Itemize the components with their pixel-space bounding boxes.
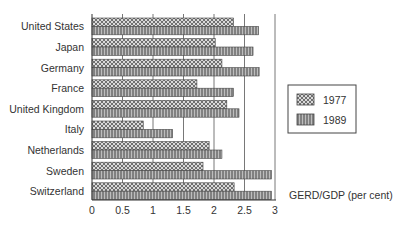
x-tick-label: 2 <box>211 204 217 216</box>
bar-1977 <box>92 39 215 47</box>
bar-1977 <box>92 100 227 108</box>
bar-1977 <box>92 183 234 191</box>
x-axis-label: GERD/GDP (per cent) <box>289 189 393 201</box>
category-labels: United StatesJapanGermanyFranceUnited Ki… <box>9 20 84 197</box>
x-tick-label: 0.5 <box>115 204 130 216</box>
bar-1977 <box>92 162 203 170</box>
bar-1989 <box>92 129 173 137</box>
legend: 1977 1989 <box>288 85 356 133</box>
bar-1977 <box>92 80 197 88</box>
category-label: United States <box>21 20 84 32</box>
bar-1989 <box>92 88 234 96</box>
bar-1989 <box>92 150 222 158</box>
gerd-gdp-bar-chart: United StatesJapanGermanyFranceUnited Ki… <box>0 0 394 229</box>
category-label: Sweden <box>46 165 84 177</box>
legend-label-1989: 1989 <box>323 114 347 126</box>
x-tick-label: 1.5 <box>176 204 191 216</box>
bar-1989 <box>92 26 259 34</box>
category-label: Italy <box>65 123 85 135</box>
bar-1977 <box>92 59 222 67</box>
x-tick-labels: 00.511.522.53 <box>89 204 278 216</box>
bar-1989 <box>92 47 253 55</box>
x-tick-label: 2.5 <box>237 204 252 216</box>
category-label: Netherlands <box>27 144 84 156</box>
category-label: Switzerland <box>30 185 84 197</box>
category-label: France <box>51 82 84 94</box>
bar-1989 <box>92 109 239 117</box>
bar-1989 <box>92 191 271 199</box>
legend-swatch-1989 <box>297 114 314 125</box>
x-tick-label: 0 <box>89 204 95 216</box>
bar-1977 <box>92 142 209 150</box>
category-label: Japan <box>55 41 84 53</box>
legend-label-1977: 1977 <box>323 94 347 106</box>
bar-1977 <box>92 121 143 129</box>
bar-1977 <box>92 18 234 26</box>
bar-1989 <box>92 68 259 76</box>
x-tick-label: 3 <box>272 204 278 216</box>
legend-swatch-1977 <box>297 94 314 105</box>
category-label: Germany <box>41 62 85 74</box>
bar-1989 <box>92 171 271 179</box>
category-label: United Kingdom <box>9 103 84 115</box>
x-tick-label: 1 <box>150 204 156 216</box>
